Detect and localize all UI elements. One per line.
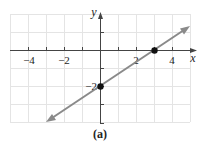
x-axis: −4 −2 2 4 x <box>10 47 197 66</box>
x-axis-label: x <box>189 51 196 65</box>
line-graph: −4 −2 2 4 x −2 y (a) <box>0 0 199 143</box>
y-axis-label: y <box>90 5 97 19</box>
x-tick-label: −4 <box>23 54 35 66</box>
x-tick-label: −2 <box>58 54 70 66</box>
x-intercept-point <box>151 47 157 53</box>
y-axis-arrow-icon <box>98 12 103 19</box>
line-arrow-end-icon <box>180 26 190 35</box>
y-axis: −2 y <box>85 5 104 124</box>
figure-caption: (a) <box>93 127 107 141</box>
y-intercept-point <box>97 83 103 89</box>
x-tick-label: 4 <box>169 54 175 66</box>
